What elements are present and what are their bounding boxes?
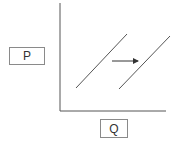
shifted-curve	[119, 36, 170, 89]
y-axis-label: P	[9, 47, 45, 65]
x-axis-label: Q	[100, 119, 128, 138]
diagram-canvas	[0, 0, 178, 146]
